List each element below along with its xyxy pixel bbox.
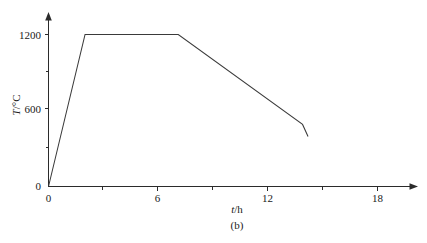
svg-text:T/°C: T/°C [10,95,22,116]
x-tick-label-12: 12 [262,192,273,204]
y-axis-arrowhead [45,12,52,21]
figure-caption: (b) [231,219,244,232]
figure-container: 1200 600 0 0 6 12 18 T/°C t/h (b) [0,0,427,243]
y-tick-label-0: 0 [36,180,42,192]
y-axis-title-unit: /°C [10,95,22,110]
y-tick-label-600: 600 [25,103,42,115]
x-axis-title-unit: /h [234,203,243,215]
y-axis-title: T/°C [10,95,22,116]
x-tick-label-0: 0 [46,192,52,204]
x-axis-arrowhead [410,183,419,190]
x-tick-label-18: 18 [372,192,384,204]
x-axis-title: t/h [231,203,243,215]
temperature-profile-line [49,35,309,187]
line-chart: 1200 600 0 0 6 12 18 T/°C t/h (b) [0,0,427,243]
x-tick-label-6: 6 [155,192,161,204]
y-tick-label-1200: 1200 [19,29,42,41]
